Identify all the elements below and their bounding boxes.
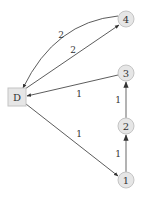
- edge-label-1-2: 1: [115, 149, 121, 159]
- node-4: 4: [118, 11, 134, 27]
- edge-label-3-D: 1: [76, 89, 82, 99]
- edge-label-4-D: 2: [58, 30, 64, 40]
- node-label-2: 2: [123, 121, 129, 132]
- node-label-D: D: [13, 92, 21, 103]
- edge-D-to-1: [26, 104, 118, 176]
- edge-label-D-4: 2: [70, 45, 76, 55]
- node-1: 1: [118, 172, 134, 188]
- node-D: D: [8, 88, 26, 106]
- edge-label-2-3: 1: [115, 95, 121, 105]
- node-3: 3: [118, 65, 134, 81]
- node-label-1: 1: [123, 175, 129, 186]
- node-label-3: 3: [123, 68, 129, 79]
- node-label-4: 4: [123, 14, 129, 25]
- edge-D-to-4: [25, 25, 119, 89]
- edge-label-D-1: 1: [76, 129, 82, 139]
- node-2: 2: [118, 118, 134, 134]
- graph-diagram: 2 2 1 1 1 1 D 1 2 3 4: [0, 0, 144, 197]
